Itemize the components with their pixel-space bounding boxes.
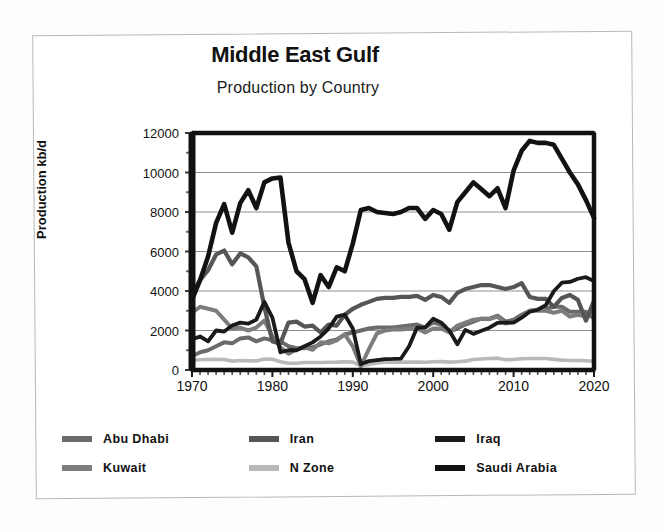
legend-label-abu-dhabi: Abu Dhabi — [103, 432, 169, 446]
plot-area: 020004000600080001000012000 197019801990… — [100, 122, 620, 392]
legend-item-iran[interactable]: Iran — [249, 432, 436, 446]
chart-subtitle: Production by Country — [0, 79, 596, 97]
chart-svg: 020004000600080001000012000 197019801990… — [100, 122, 620, 392]
y-axis-label: Production kb/d — [34, 110, 49, 270]
x-tick-labels: 197019801990200020102020 — [176, 378, 609, 392]
legend-swatch-iraq — [435, 436, 465, 442]
series-line-iraq — [192, 277, 594, 364]
legend-swatch-n-zone — [249, 465, 279, 471]
svg-text:2000: 2000 — [418, 378, 449, 392]
y-tick-labels: 020004000600080001000012000 — [143, 126, 179, 378]
legend-label-n-zone: N Zone — [290, 461, 335, 475]
chart-title: Middle East Gulf — [0, 42, 590, 68]
legend-row-2: Kuwait N Zone Saudi Arabia — [62, 453, 622, 482]
svg-text:2000: 2000 — [150, 324, 179, 339]
svg-text:2020: 2020 — [578, 378, 609, 392]
svg-text:10000: 10000 — [143, 166, 179, 181]
svg-text:8000: 8000 — [150, 205, 179, 220]
legend-item-iraq[interactable]: Iraq — [435, 432, 622, 446]
legend-item-abu-dhabi[interactable]: Abu Dhabi — [62, 432, 249, 446]
legend-row-1: Abu Dhabi Iran Iraq — [62, 424, 622, 453]
legend-label-iraq: Iraq — [476, 432, 501, 446]
legend-item-saudi-arabia[interactable]: Saudi Arabia — [435, 461, 622, 475]
chart-page: Middle East Gulf Production by Country P… — [0, 0, 664, 532]
svg-text:1970: 1970 — [176, 378, 207, 392]
svg-text:0: 0 — [172, 363, 179, 378]
svg-text:2010: 2010 — [498, 378, 529, 392]
chart-content: Middle East Gulf Production by Country P… — [0, 0, 664, 532]
svg-text:1980: 1980 — [257, 378, 288, 392]
legend-swatch-iran — [249, 436, 279, 442]
legend-swatch-abu-dhabi — [62, 436, 92, 442]
legend-label-saudi-arabia: Saudi Arabia — [476, 461, 557, 475]
svg-text:1990: 1990 — [337, 378, 368, 392]
data-series-group — [192, 141, 594, 366]
legend-swatch-kuwait — [62, 465, 92, 471]
legend-label-kuwait: Kuwait — [103, 461, 146, 475]
series-line-saudi-arabia — [192, 141, 594, 303]
chart-legend: Abu Dhabi Iran Iraq Kuwait N Z — [62, 424, 622, 482]
legend-item-n-zone[interactable]: N Zone — [249, 461, 436, 475]
legend-item-kuwait[interactable]: Kuwait — [62, 461, 249, 475]
legend-label-iran: Iran — [290, 432, 315, 446]
svg-text:4000: 4000 — [150, 284, 179, 299]
svg-text:6000: 6000 — [150, 245, 179, 260]
legend-swatch-saudi-arabia — [435, 465, 465, 471]
svg-text:12000: 12000 — [143, 126, 179, 141]
